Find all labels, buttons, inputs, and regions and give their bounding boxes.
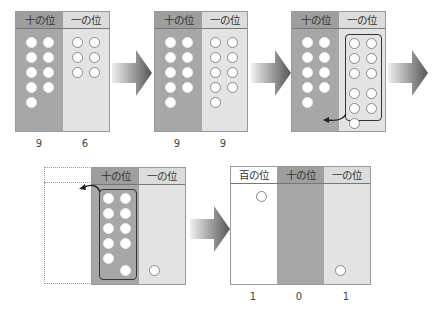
tens-dot <box>26 52 37 63</box>
ones-dot <box>210 37 221 48</box>
hundreds-header: 百の位 <box>231 167 277 184</box>
panel-step-3: 十の位 一の位 <box>291 11 386 132</box>
tens-dot <box>103 238 114 249</box>
tens-dot <box>182 67 193 78</box>
tens-dot <box>302 97 313 108</box>
tens-dot <box>120 223 131 234</box>
tens-dot <box>165 67 176 78</box>
tens-dot <box>165 97 176 108</box>
tens-dot <box>165 52 176 63</box>
hundreds-dot <box>256 191 267 202</box>
ones-dot <box>349 103 360 114</box>
tens-dot <box>43 37 54 48</box>
ones-dot <box>349 118 360 129</box>
tens-dot <box>120 193 131 204</box>
tens-dot <box>43 52 54 63</box>
tens-dot <box>120 238 131 249</box>
tens-dot <box>165 82 176 93</box>
ones-dot <box>149 265 160 276</box>
ones-dot <box>210 97 221 108</box>
carry-arrow-icon <box>322 112 348 126</box>
tens-dot <box>43 82 54 93</box>
right-arrow-icon <box>388 50 428 96</box>
carry-arrow-icon <box>78 180 102 196</box>
ones-column <box>324 167 370 284</box>
tens-dot <box>103 223 114 234</box>
ones-header: 一の位 <box>324 167 370 184</box>
hundreds-value: 1 <box>243 291 263 302</box>
ones-dot <box>89 52 100 63</box>
tens-dot <box>319 67 330 78</box>
tens-header: 十の位 <box>155 12 202 29</box>
right-arrow-icon <box>112 50 152 96</box>
ones-header: 一の位 <box>339 12 385 29</box>
hundreds-column <box>231 167 277 284</box>
ones-dot <box>227 67 238 78</box>
tens-dot <box>26 82 37 93</box>
ones-dot <box>349 53 360 64</box>
tens-dot <box>302 52 313 63</box>
tens-dot <box>182 52 193 63</box>
ones-dot <box>366 88 377 99</box>
tens-dot <box>165 37 176 48</box>
ones-dot <box>72 37 83 48</box>
tens-dot <box>319 82 330 93</box>
ones-dot <box>349 88 360 99</box>
ones-value: 1 <box>336 291 356 302</box>
tens-header: 十の位 <box>16 12 63 29</box>
tens-column <box>155 12 202 131</box>
tens-column <box>16 12 63 131</box>
panel-step-4: 十の位 一の位 <box>91 167 186 285</box>
ones-header: 一の位 <box>202 12 247 29</box>
ones-column <box>202 12 247 131</box>
ones-dot <box>89 67 100 78</box>
ones-header: 一の位 <box>63 12 109 29</box>
ones-value: 6 <box>75 138 95 149</box>
ones-dot <box>366 53 377 64</box>
ones-dot <box>227 52 238 63</box>
ones-column <box>139 168 185 284</box>
tens-dot <box>319 52 330 63</box>
tens-dot <box>302 37 313 48</box>
ones-dot <box>72 67 83 78</box>
tens-dot <box>302 67 313 78</box>
tens-dot <box>26 97 37 108</box>
ones-dot <box>349 38 360 49</box>
ones-dot <box>227 37 238 48</box>
tens-dot <box>103 208 114 219</box>
tens-header: 十の位 <box>277 167 324 184</box>
ones-dot <box>210 82 221 93</box>
tens-dot <box>120 208 131 219</box>
ones-value: 9 <box>213 138 233 149</box>
ones-dot <box>72 52 83 63</box>
tens-dot <box>319 37 330 48</box>
tens-value: 9 <box>167 138 187 149</box>
ones-dot <box>210 52 221 63</box>
ones-dot <box>366 103 377 114</box>
tens-dot <box>120 265 131 276</box>
ones-header: 一の位 <box>139 168 185 185</box>
panel-step-1: 十の位 一の位 <box>15 11 110 132</box>
tens-dot <box>182 82 193 93</box>
panel-step-5: 百の位 十の位 一の位 <box>230 166 371 285</box>
ones-dot <box>349 68 360 79</box>
tens-header: 十の位 <box>292 12 339 29</box>
tens-dot <box>182 37 193 48</box>
ones-dot <box>366 38 377 49</box>
tens-dot <box>26 37 37 48</box>
tens-value: 0 <box>289 291 309 302</box>
tens-dot <box>103 193 114 204</box>
ones-column <box>63 12 109 131</box>
ones-dot <box>210 67 221 78</box>
tens-dot <box>26 67 37 78</box>
ones-dot <box>366 68 377 79</box>
right-arrow-icon <box>251 50 291 96</box>
ones-dot <box>227 82 238 93</box>
tens-dot <box>302 82 313 93</box>
right-arrow-icon <box>190 206 230 252</box>
ones-dot <box>335 265 346 276</box>
tens-dot <box>103 253 114 264</box>
tens-column <box>277 167 324 284</box>
tens-dot <box>43 67 54 78</box>
tens-value: 9 <box>29 138 49 149</box>
